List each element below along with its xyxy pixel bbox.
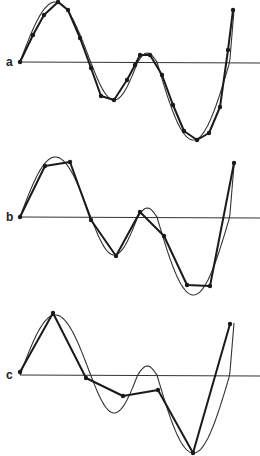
panel-b: b bbox=[6, 157, 260, 295]
sample-point bbox=[68, 160, 72, 164]
sampled-approximation bbox=[20, 162, 234, 286]
sample-point bbox=[162, 234, 166, 238]
sample-point bbox=[89, 218, 93, 222]
sample-point bbox=[133, 63, 137, 67]
sample-point bbox=[56, 0, 60, 4]
sample-point bbox=[207, 131, 211, 135]
sample-point bbox=[138, 210, 142, 214]
panel-label: a bbox=[6, 55, 13, 69]
sample-point bbox=[138, 53, 142, 57]
sample-point bbox=[191, 451, 195, 455]
sample-point bbox=[114, 254, 118, 258]
sample-point bbox=[18, 60, 22, 64]
panel-label: b bbox=[6, 210, 13, 224]
panel-a: a bbox=[6, 0, 260, 142]
sample-point bbox=[218, 105, 222, 109]
sample-point bbox=[31, 33, 35, 37]
sampling-diagram: abc bbox=[0, 0, 260, 456]
sample-point bbox=[185, 283, 189, 287]
sample-point bbox=[195, 138, 199, 142]
sample-point bbox=[18, 215, 22, 219]
sample-point bbox=[228, 322, 232, 326]
sample-point bbox=[66, 8, 70, 12]
sample-point bbox=[43, 164, 47, 168]
sample-point bbox=[89, 66, 93, 70]
sample-point bbox=[84, 376, 88, 380]
sample-point bbox=[182, 129, 186, 133]
sample-point bbox=[78, 36, 82, 40]
time-axis bbox=[20, 375, 260, 376]
sample-point bbox=[226, 48, 230, 52]
sample-point bbox=[99, 94, 103, 98]
sample-point bbox=[112, 98, 116, 102]
continuous-waveform bbox=[20, 315, 234, 453]
sample-point bbox=[171, 103, 175, 107]
sample-point bbox=[51, 311, 55, 315]
sample-point bbox=[160, 73, 164, 77]
sampled-approximation bbox=[20, 2, 233, 140]
sample-point bbox=[148, 53, 152, 57]
continuous-waveform bbox=[20, 157, 234, 295]
sample-point bbox=[208, 284, 212, 288]
panel-c: c bbox=[6, 311, 260, 455]
continuous-waveform bbox=[20, 2, 234, 140]
panel-label: c bbox=[6, 368, 13, 382]
sample-point bbox=[231, 8, 235, 12]
sample-point bbox=[232, 161, 236, 165]
sample-point bbox=[125, 78, 129, 82]
sample-point bbox=[121, 394, 125, 398]
sample-point bbox=[156, 388, 160, 392]
sample-point bbox=[42, 13, 46, 17]
time-axis bbox=[20, 62, 260, 63]
sampled-approximation bbox=[20, 313, 230, 453]
sample-point bbox=[18, 370, 22, 374]
